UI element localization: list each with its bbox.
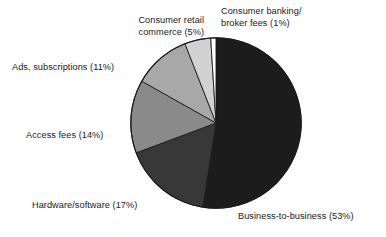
slice-label-hardware-software: Hardware/software (17%) — [32, 200, 137, 212]
pie-chart-figure: Consumer banking/ broker fees (1%) Consu… — [0, 0, 386, 237]
pie-slice — [203, 38, 301, 208]
slice-label-ads-subscriptions: Ads, subscriptions (11%) — [12, 62, 114, 74]
pie-svg — [128, 35, 304, 211]
pie-chart-graphic — [128, 35, 304, 211]
slice-label-consumer-banking: Consumer banking/ broker fees (1%) — [221, 6, 302, 29]
slice-label-consumer-retail: Consumer retail commerce (5%) — [96, 15, 204, 38]
pie-slice-group — [131, 38, 301, 208]
slice-label-business-to-business: Business-to-business (53%) — [238, 211, 354, 223]
slice-label-access-fees: Access fees (14%) — [26, 130, 103, 142]
